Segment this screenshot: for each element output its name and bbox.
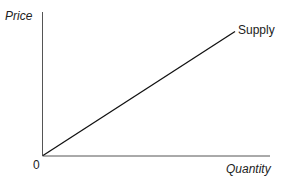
origin-label: 0 bbox=[33, 159, 40, 171]
x-axis-label: Quantity bbox=[226, 163, 271, 175]
supply-series-label: Supply bbox=[238, 24, 275, 36]
y-axis-label: Price bbox=[5, 10, 32, 22]
supply-chart: Price Quantity 0 Supply bbox=[0, 0, 290, 179]
supply-line bbox=[43, 32, 235, 156]
